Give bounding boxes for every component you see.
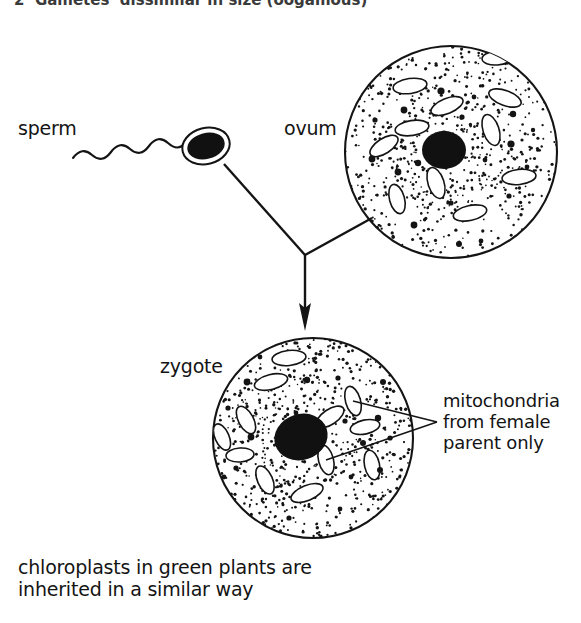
oogamy-fertilisation-diagram: 2 Gametes dissimilar in size (oogamous) — [0, 0, 581, 623]
figure-caption: chloroplasts in green plants are inherit… — [18, 556, 312, 601]
label-sperm: sperm — [18, 117, 77, 139]
ovum-cell — [344, 45, 558, 258]
zygote-cell — [210, 338, 414, 538]
label-mitochondria-callout: mitochondria from female parent only — [443, 390, 560, 454]
label-zygote: zygote — [160, 355, 223, 377]
label-ovum: ovum — [284, 117, 337, 139]
sperm-tail — [73, 139, 185, 159]
ovum-fusion-line — [305, 218, 372, 255]
ovum-nucleus — [422, 131, 466, 169]
sperm-cell — [73, 123, 234, 170]
sperm-fusion-line — [224, 164, 305, 255]
diagram-canvas — [0, 0, 581, 623]
